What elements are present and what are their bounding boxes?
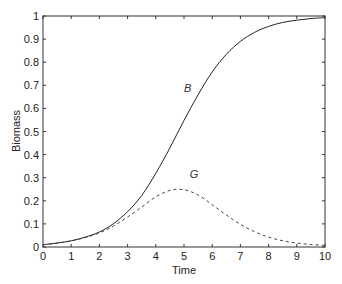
y-tick-label: 0.5: [24, 126, 39, 138]
x-tick-label: 10: [319, 250, 331, 262]
y-axis-label: Biomass: [10, 109, 22, 152]
y-tick-label: 0.6: [24, 102, 39, 114]
x-axis-label: Time: [172, 264, 196, 276]
y-tick-label: 0.2: [24, 195, 39, 207]
x-tick-label: 8: [266, 250, 272, 262]
series-group: [43, 18, 325, 246]
x-tick-label: 2: [96, 250, 102, 262]
series-line-B: [43, 18, 325, 245]
y-tick-label: 0: [33, 241, 39, 253]
axes: 01234567891000.10.20.30.40.50.60.70.80.9…: [24, 10, 331, 262]
x-tick-label: 4: [153, 250, 159, 262]
y-tick-label: 0.1: [24, 218, 39, 230]
curve-label-B: B: [184, 82, 191, 94]
biomass-chart: 01234567891000.10.20.30.40.50.60.70.80.9…: [0, 0, 342, 284]
x-tick-label: 1: [68, 250, 74, 262]
y-tick-label: 0.4: [24, 149, 39, 161]
y-tick-label: 0.7: [24, 79, 39, 91]
curve-label-G: G: [190, 168, 199, 180]
x-tick-label: 6: [209, 250, 215, 262]
y-tick-label: 0.3: [24, 172, 39, 184]
x-tick-label: 3: [125, 250, 131, 262]
y-tick-label: 1: [33, 10, 39, 22]
y-tick-label: 0.9: [24, 33, 39, 45]
x-tick-label: 0: [40, 250, 46, 262]
x-tick-label: 9: [294, 250, 300, 262]
plot-frame: [43, 16, 325, 247]
x-tick-label: 5: [181, 250, 187, 262]
x-tick-label: 7: [237, 250, 243, 262]
y-tick-label: 0.8: [24, 56, 39, 68]
